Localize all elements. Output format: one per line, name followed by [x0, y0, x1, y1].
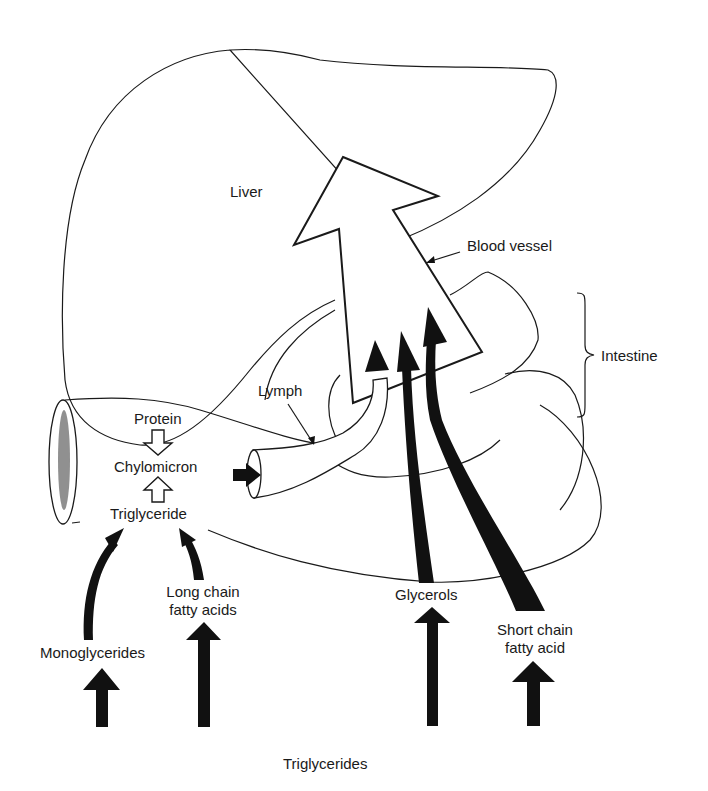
monoglycerides-up-arrow — [83, 668, 120, 727]
chylomicron-label: Chylomicron — [114, 458, 197, 476]
triglyceride-label: Triglyceride — [110, 505, 187, 523]
long-chain-fatty-acids-label: Long chain fatty acids — [158, 583, 248, 619]
glycerols-label: Glycerols — [395, 586, 458, 604]
short-chain-fatty-acid-label: Short chain fatty acid — [487, 621, 583, 657]
short-chain-line1: Short chain — [487, 621, 583, 639]
diagram-canvas: Liver Blood vessel Intestine Lymph Prote… — [0, 0, 708, 791]
intestine-brace — [577, 293, 594, 417]
protein-label: Protein — [134, 410, 182, 428]
liver-label: Liver — [230, 183, 263, 201]
intestine-coil-5 — [329, 375, 340, 445]
lymph-label: Lymph — [258, 382, 302, 400]
long-chain-line1: Long chain — [158, 583, 248, 601]
short-chain-up-arrow — [512, 661, 555, 726]
intestine-lumen-inner — [58, 410, 70, 510]
long-chain-line2: fatty acids — [158, 601, 248, 619]
long-chain-curved-arrowhead — [179, 528, 196, 547]
lymph-pointer — [288, 404, 313, 443]
triglycerides-source-label: Triglycerides — [283, 755, 367, 773]
long-chain-up-arrow — [186, 622, 221, 727]
diagram-drawing — [0, 0, 708, 791]
short-chain-line2: fatty acid — [487, 639, 583, 657]
glycerols-up-arrow — [414, 607, 450, 726]
triglyceride-up-arrow — [144, 477, 172, 502]
intestine-top-wall — [65, 398, 320, 444]
protein-down-arrow — [144, 430, 172, 455]
blood-vessel-arrow — [294, 157, 482, 403]
monoglycerides-label: Monoglycerides — [40, 644, 145, 662]
blood-vessel-pointer-head — [426, 256, 435, 263]
monoglycerides-curved-arrow — [84, 540, 118, 640]
intestine-coil-2 — [505, 371, 583, 510]
blood-vessel-label: Blood vessel — [467, 237, 552, 255]
intestine-label: Intestine — [601, 347, 658, 365]
